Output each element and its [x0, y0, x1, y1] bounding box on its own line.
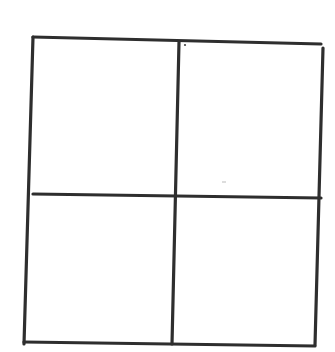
bottom-left-quadrant [26, 196, 173, 342]
top-left-quadrant [34, 39, 178, 195]
bottom-right-quadrant [173, 197, 319, 344]
top-right-quadrant [176, 43, 320, 197]
scan-speck [184, 44, 186, 46]
quadrant-grid-diagram [0, 0, 335, 352]
